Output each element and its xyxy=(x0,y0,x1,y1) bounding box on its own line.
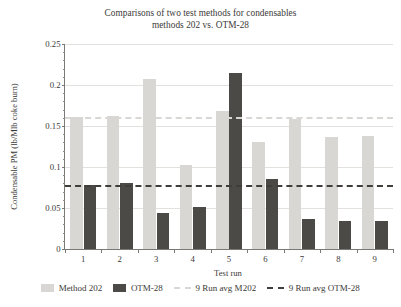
bar-method202-run-7 xyxy=(289,119,302,249)
bar-method202-run-3 xyxy=(143,79,156,249)
x-axis-title: Test run xyxy=(64,268,392,278)
x-axis-tick-label: 6 xyxy=(263,254,267,264)
bar-otm28-run-3 xyxy=(157,213,170,249)
bar-method202-run-6 xyxy=(252,142,265,249)
x-axis-tick-label: 7 xyxy=(300,254,304,264)
x-axis-tick-label: 3 xyxy=(154,254,158,264)
y-axis-minor-tick xyxy=(63,69,65,70)
legend-swatch-icon xyxy=(41,284,54,293)
x-axis-tick xyxy=(174,249,175,253)
y-axis-minor-tick xyxy=(63,216,65,217)
y-axis-tick-label: 0.15 xyxy=(45,121,60,131)
y-axis-minor-tick xyxy=(63,192,65,193)
x-axis-tick xyxy=(247,249,248,253)
x-axis-tick xyxy=(320,249,321,253)
bar-otm28-run-4 xyxy=(193,207,206,249)
x-axis-tick xyxy=(101,249,102,253)
x-axis-tick-label: 9 xyxy=(373,254,377,264)
x-axis-tick-label: 2 xyxy=(117,254,121,264)
legend-item[interactable]: 9 Run avg M202 xyxy=(174,283,256,293)
chart-legend: Method 202OTM-289 Run avg M2029 Run avg … xyxy=(0,283,401,293)
legend-dash-icon xyxy=(174,287,191,289)
bar-otm28-run-2 xyxy=(120,183,133,249)
y-axis-minor-tick xyxy=(63,101,65,102)
legend-label: 9 Run avg M202 xyxy=(195,283,256,293)
bar-otm28-run-8 xyxy=(339,221,352,249)
y-axis-minor-tick xyxy=(63,134,65,135)
y-axis-minor-tick xyxy=(63,93,65,94)
x-axis-tick-label: 8 xyxy=(336,254,340,264)
bar-method202-run-2 xyxy=(107,116,120,249)
bar-otm28-run-5 xyxy=(229,73,242,249)
legend-label: 9 Run avg OTM-28 xyxy=(289,283,360,293)
y-axis-minor-tick xyxy=(63,52,65,53)
y-axis-tick-label: 0.05 xyxy=(45,203,60,213)
y-axis-tick-label: 0.25 xyxy=(45,39,60,49)
x-axis-tick xyxy=(138,249,139,253)
y-axis-minor-tick xyxy=(63,60,65,61)
legend-swatch-icon xyxy=(113,284,126,293)
x-axis-tick xyxy=(357,249,358,253)
bar-method202-run-8 xyxy=(325,137,338,249)
legend-item[interactable]: OTM-28 xyxy=(113,283,163,293)
x-axis-tick xyxy=(284,249,285,253)
chart-title: Comparisons of two test methods for cond… xyxy=(0,7,401,32)
y-axis-tick-label: 0.1 xyxy=(50,162,61,172)
chart-container: Comparisons of two test methods for cond… xyxy=(0,0,401,307)
bar-otm28-run-7 xyxy=(302,219,315,249)
legend-label: OTM-28 xyxy=(131,283,163,293)
bar-otm28-run-1 xyxy=(84,185,97,249)
y-axis-minor-tick xyxy=(63,142,65,143)
gridline xyxy=(65,44,393,45)
y-axis-tick-label: 0.2 xyxy=(50,80,61,90)
y-axis-minor-tick xyxy=(63,233,65,234)
y-axis-minor-tick xyxy=(63,159,65,160)
legend-label: Method 202 xyxy=(59,283,103,293)
legend-item[interactable]: 9 Run avg OTM-28 xyxy=(267,283,360,293)
legend-item[interactable]: Method 202 xyxy=(41,283,102,293)
x-axis-tick xyxy=(393,249,394,253)
y-axis-minor-tick xyxy=(63,224,65,225)
y-axis-title: Condensable PM (lb/Mlb coke burn) xyxy=(9,44,23,249)
bar-method202-run-9 xyxy=(362,136,375,249)
x-axis-tick xyxy=(65,249,66,253)
legend-dash-icon xyxy=(267,287,284,289)
bar-method202-run-1 xyxy=(70,117,83,249)
average-line-otm28 xyxy=(65,185,393,187)
x-axis-tick xyxy=(211,249,212,253)
chart-title-line1: Comparisons of two test methods for cond… xyxy=(105,8,297,18)
chart-title-line2: methods 202 vs. OTM-28 xyxy=(0,19,401,31)
y-axis-tick-label: 0 xyxy=(56,244,60,254)
x-axis-tick-label: 4 xyxy=(190,254,194,264)
y-axis-minor-tick xyxy=(63,175,65,176)
y-axis-minor-tick xyxy=(63,110,65,111)
y-axis-minor-tick xyxy=(63,77,65,78)
y-axis-minor-tick xyxy=(63,241,65,242)
plot-area: Condensable PM (lb/Mlb coke burn) 00.050… xyxy=(64,44,393,250)
y-axis-minor-tick xyxy=(63,200,65,201)
bar-otm28-run-9 xyxy=(375,221,388,249)
bar-method202-run-4 xyxy=(180,165,193,249)
bar-method202-run-5 xyxy=(216,111,229,249)
bar-otm28-run-6 xyxy=(266,179,279,249)
x-axis-tick-label: 1 xyxy=(81,254,85,264)
x-axis-tick-label: 5 xyxy=(227,254,231,264)
average-line-method202 xyxy=(65,117,393,119)
y-axis-minor-tick xyxy=(63,151,65,152)
